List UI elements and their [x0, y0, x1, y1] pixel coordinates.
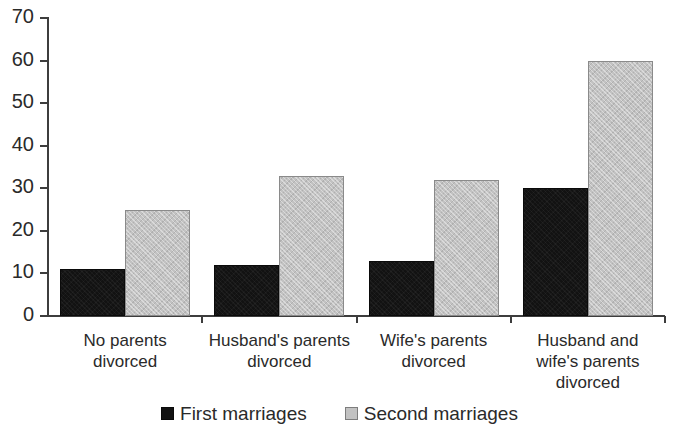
- y-axis-tick-label: 20: [12, 219, 34, 239]
- x-axis-category-label: Husband's parentsdivorced: [202, 330, 356, 372]
- y-axis-tick-label: 40: [12, 134, 34, 154]
- y-axis-tick: 30: [40, 187, 48, 189]
- category-label-line: Wife's parents: [357, 330, 511, 351]
- black-square-swatch: [161, 407, 174, 420]
- category-label-line: Husband and: [511, 330, 665, 351]
- legend-item-label: Second marriages: [364, 404, 518, 423]
- y-axis-tick: 60: [40, 60, 48, 62]
- x-axis-category-label: No parentsdivorced: [48, 330, 202, 372]
- x-axis-category-label: Husband andwife's parentsdivorced: [511, 330, 665, 393]
- bar-second-marriages: [125, 210, 190, 316]
- x-axis-category-label: Wife's parentsdivorced: [357, 330, 511, 372]
- y-axis-tick: 10: [40, 272, 48, 274]
- x-axis-tick: [510, 316, 512, 323]
- category-label-line: wife's parents: [511, 351, 665, 372]
- category-label-line: divorced: [357, 351, 511, 372]
- category-label-line: divorced: [511, 372, 665, 393]
- bar-second-marriages: [434, 180, 499, 316]
- bar-first-marriages: [60, 269, 125, 316]
- y-axis-tick-label: 0: [23, 304, 34, 324]
- bar-chart: 010203040506070 No parentsdivorcedHusban…: [0, 0, 679, 431]
- bar-second-marriages: [279, 176, 344, 316]
- y-axis-tick-label: 10: [12, 261, 34, 281]
- y-axis-tick-label: 30: [12, 176, 34, 196]
- bar-second-marriages: [588, 61, 653, 316]
- legend-item: First marriages: [161, 404, 307, 423]
- y-axis-tick: 20: [40, 230, 48, 232]
- category-label-line: No parents: [48, 330, 202, 351]
- x-axis-tick: [664, 316, 666, 323]
- plot-area: [48, 18, 665, 316]
- gray-square-swatch: [345, 407, 358, 420]
- bar-first-marriages: [214, 265, 279, 316]
- y-axis-tick-label: 60: [12, 49, 34, 69]
- y-axis-tick-label: 50: [12, 91, 34, 111]
- y-axis-tick: 70: [40, 17, 48, 19]
- y-axis-tick: 0: [40, 315, 48, 317]
- bar-first-marriages: [369, 261, 434, 316]
- category-label-line: divorced: [48, 351, 202, 372]
- x-axis-tick: [356, 316, 358, 323]
- category-label-line: Husband's parents: [202, 330, 356, 351]
- chart-legend: First marriagesSecond marriages: [0, 404, 679, 423]
- legend-item-label: First marriages: [180, 404, 307, 423]
- category-label-line: divorced: [202, 351, 356, 372]
- y-axis-tick-label: 70: [12, 6, 34, 26]
- bar-first-marriages: [523, 188, 588, 316]
- y-axis-tick: 40: [40, 145, 48, 147]
- x-axis-tick: [201, 316, 203, 323]
- y-axis-tick: 50: [40, 102, 48, 104]
- legend-item: Second marriages: [345, 404, 518, 423]
